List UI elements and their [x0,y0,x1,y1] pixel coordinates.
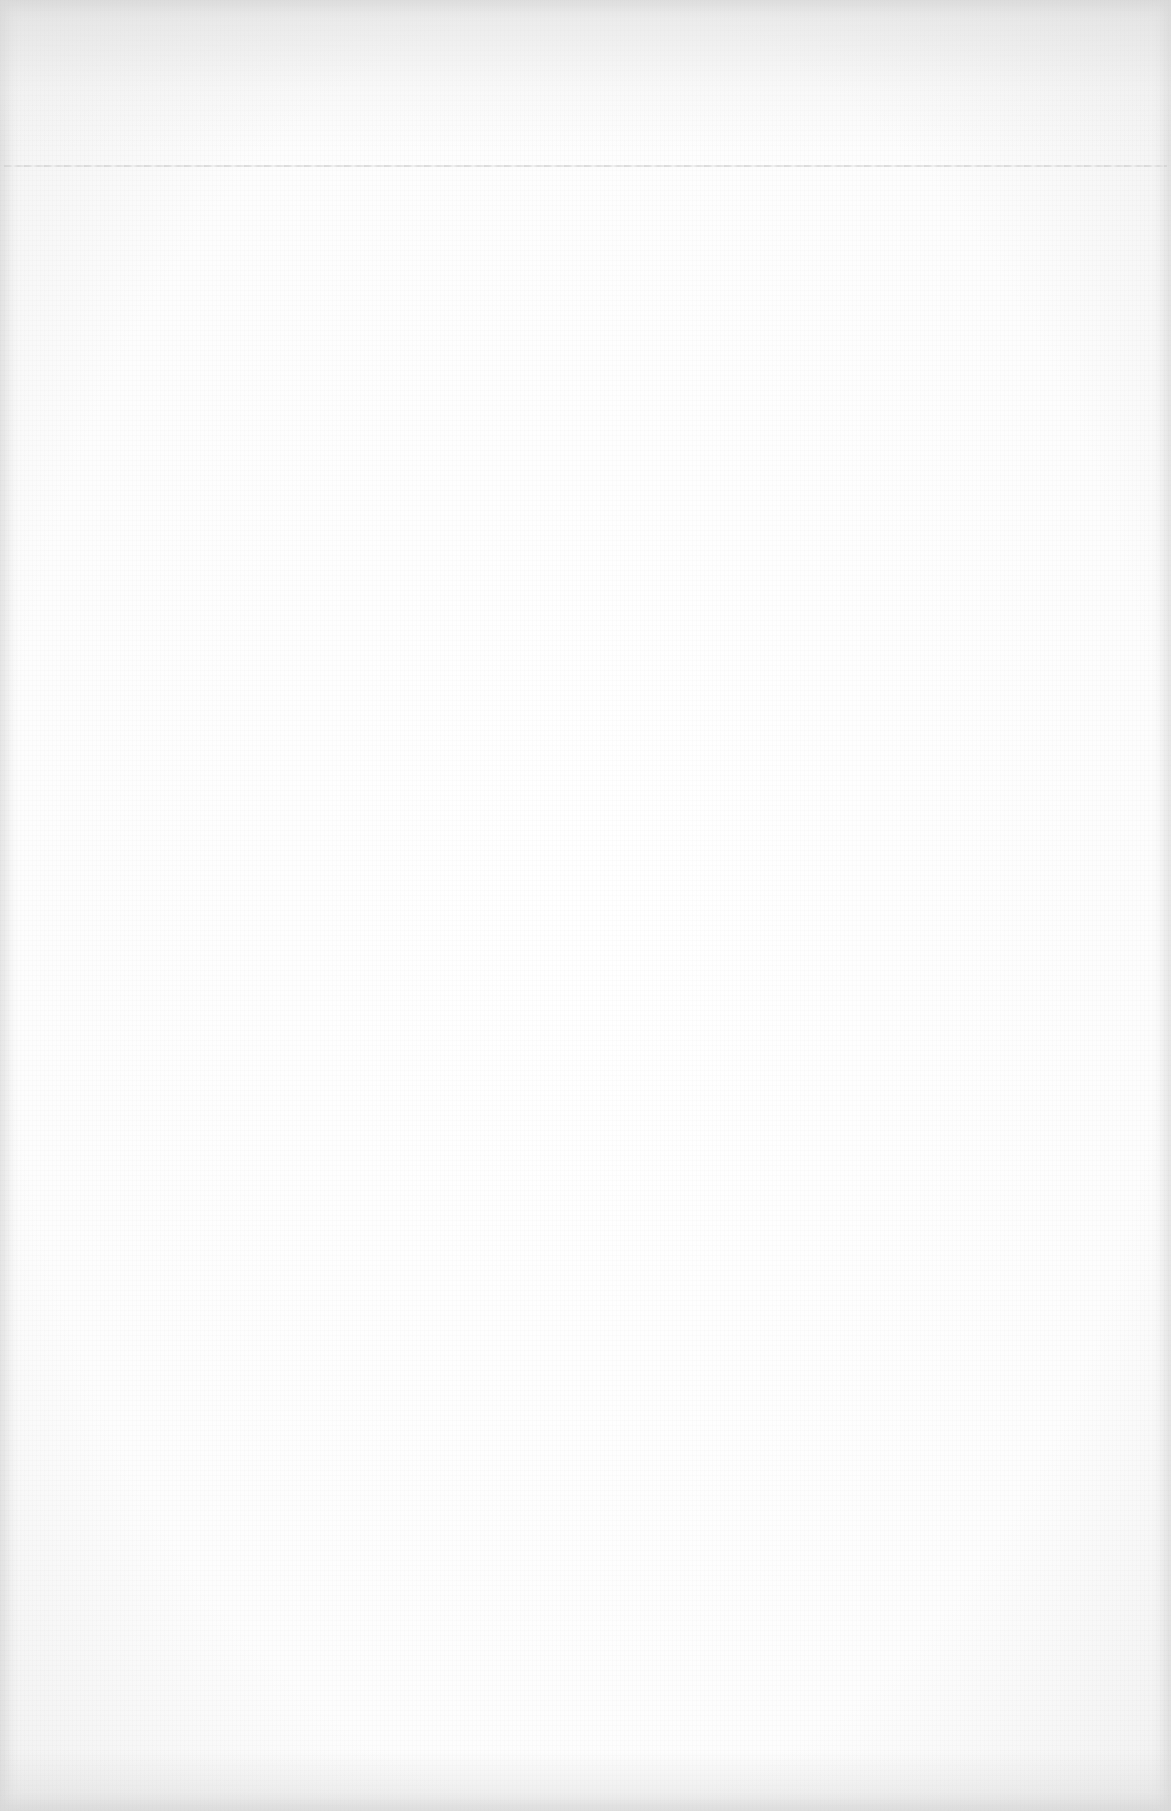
faint-ruled-line [4,165,1167,167]
bottom-edge-shadow [0,1751,1171,1811]
scanned-blank-page [0,0,1171,1811]
top-edge-shadow [0,0,1171,150]
